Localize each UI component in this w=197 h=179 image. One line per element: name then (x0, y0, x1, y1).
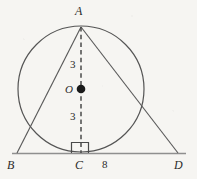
measure-label-cd: 8 (102, 159, 108, 170)
triangle-side-ad (81, 27, 178, 153)
measure-label-ao: 3 (70, 59, 76, 70)
vertex-label-b: B (7, 159, 14, 171)
vertex-label-c: C (75, 159, 83, 171)
center-label-o: O (65, 84, 73, 95)
center-point-dot (77, 85, 86, 94)
geometry-figure: A B C D O 3 3 8 (0, 0, 197, 179)
vertex-label-d: D (174, 159, 183, 171)
vertex-label-a: A (75, 5, 82, 17)
measure-label-oc: 3 (70, 111, 76, 122)
diagram-canvas (0, 0, 197, 179)
